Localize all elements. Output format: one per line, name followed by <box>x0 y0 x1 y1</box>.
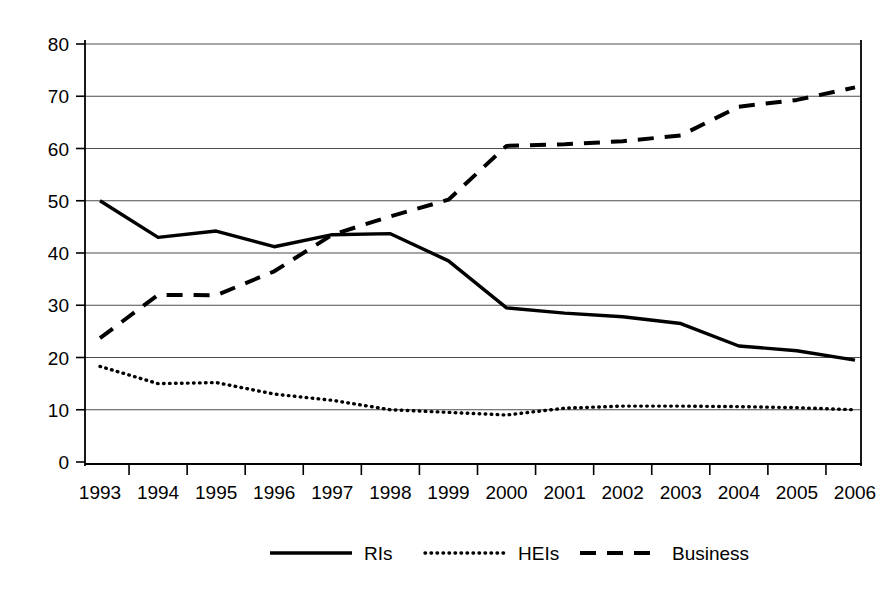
y-axis-tick-labels: 80706050403020100 <box>48 34 69 473</box>
chart-background <box>0 0 891 598</box>
x-axis-tick-label: 1997 <box>311 482 353 503</box>
x-axis-tick-label: 2000 <box>485 482 527 503</box>
x-axis-tick-label: 2003 <box>660 482 702 503</box>
chart-container: 80706050403020100 1993199419951996199719… <box>0 0 891 598</box>
x-axis-tick-label: 1994 <box>137 482 180 503</box>
legend-label-business: Business <box>672 543 749 564</box>
x-axis-tick-label: 2006 <box>834 482 876 503</box>
x-axis-tick-label: 2004 <box>718 482 761 503</box>
x-axis-tick-label: 1998 <box>369 482 411 503</box>
line-chart: 80706050403020100 1993199419951996199719… <box>0 0 891 598</box>
y-axis-tick-label: 30 <box>48 295 69 316</box>
x-axis-tick-label: 1996 <box>253 482 295 503</box>
x-axis-tick-label: 1993 <box>79 482 121 503</box>
y-axis-tick-label: 10 <box>48 400 69 421</box>
x-axis-tick-label: 1995 <box>195 482 237 503</box>
y-axis-tick-label: 40 <box>48 243 69 264</box>
y-axis-tick-label: 70 <box>48 86 69 107</box>
legend-label-ris: RIs <box>364 543 393 564</box>
legend-label-heis: HEIs <box>518 543 559 564</box>
x-axis-tick-label: 2002 <box>602 482 644 503</box>
y-axis-tick-label: 20 <box>48 348 69 369</box>
y-axis-tick-label: 50 <box>48 191 69 212</box>
x-axis-tick-label: 1999 <box>427 482 469 503</box>
y-axis-tick-label: 80 <box>48 34 69 55</box>
y-axis-tick-label: 0 <box>58 452 69 473</box>
x-axis-tick-label: 2001 <box>543 482 585 503</box>
y-axis-tick-label: 60 <box>48 139 69 160</box>
x-axis-tick-label: 2005 <box>776 482 818 503</box>
